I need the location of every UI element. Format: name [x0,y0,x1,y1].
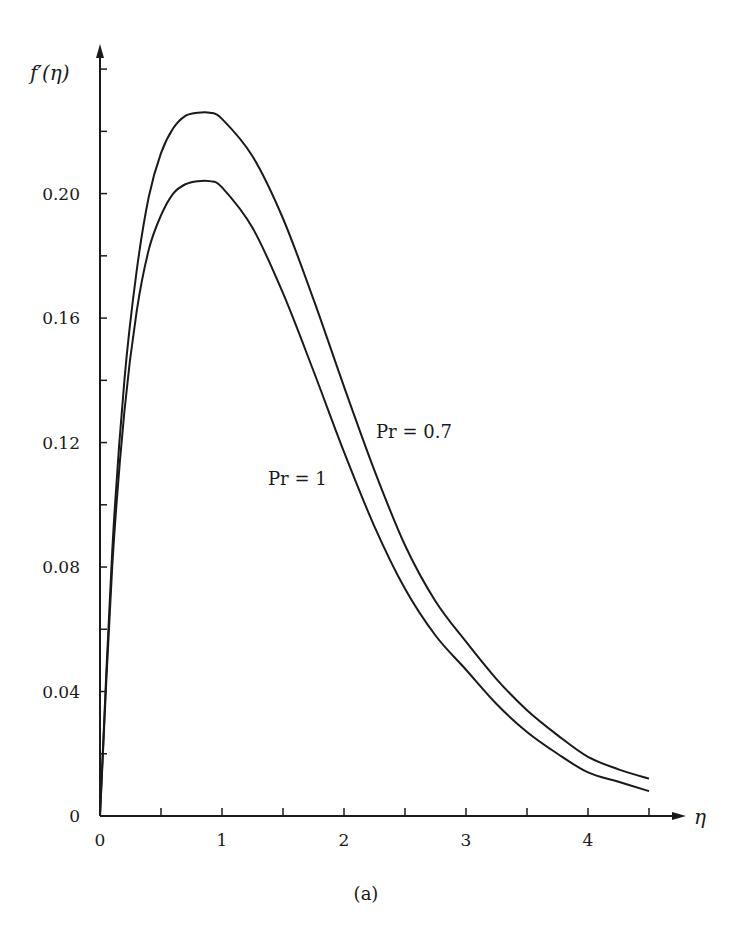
x-axis-arrow-icon [672,812,686,820]
y-tick-label: 0.12 [42,433,80,453]
y-tick-label: 0.16 [42,308,80,328]
x-tick-label: 4 [583,830,594,850]
series-annotation-pr-1: Pr = 1 [268,468,327,489]
y-tick-label: 0 [69,806,80,826]
x-tick-label: 0 [95,830,106,850]
x-tick-label: 3 [461,830,472,850]
y-axis-arrow-icon [96,44,104,58]
x-tick-label: 2 [339,830,350,850]
y-tick-label: 0.04 [42,682,80,702]
series-line-pr-0-7 [100,112,649,816]
y-tick-label: 0.20 [42,184,80,204]
series-lines [100,112,649,816]
x-axis-label: η [694,805,706,829]
y-axis-label: f′(η) [28,61,70,85]
series-line-pr-1 [100,181,649,816]
x-tick-label: 1 [217,830,228,850]
series-annotation-pr-0-7: Pr = 0.7 [376,421,452,442]
figure-caption: (a) [354,883,379,904]
y-tick-label: 0.08 [42,557,80,577]
chart-canvas: 00.040.080.120.160.2001234f′(η)ηPr = 0.7… [0,0,735,941]
